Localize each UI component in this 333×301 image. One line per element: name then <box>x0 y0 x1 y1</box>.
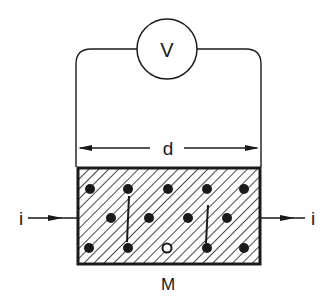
arrow-right-icon <box>48 215 63 221</box>
current-out: i <box>261 208 315 229</box>
arrow-left-icon <box>78 145 92 151</box>
current-in: i <box>19 208 77 229</box>
arrow-right-icon <box>280 215 295 221</box>
voltmeter-label: V <box>160 39 174 61</box>
current-in-label: i <box>19 208 23 229</box>
dimension-label: d <box>163 138 174 159</box>
dimension-d: d <box>78 138 259 159</box>
sample-m: M <box>78 168 260 294</box>
hall-effect-diagram: V d <box>0 0 333 301</box>
sample-label: M <box>161 275 175 294</box>
diagram-canvas: V d <box>0 0 333 301</box>
voltmeter: V <box>137 19 197 79</box>
arrow-right-icon <box>245 145 259 151</box>
current-out-label: i <box>311 208 315 229</box>
